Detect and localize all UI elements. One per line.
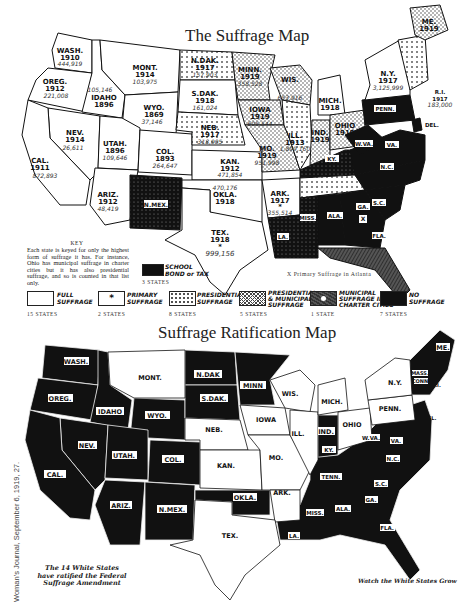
svg-text:S.DAK.: S.DAK. xyxy=(201,395,226,403)
svg-text:R.I.: R.I. xyxy=(431,382,441,388)
svg-text:KAN.: KAN. xyxy=(217,462,235,470)
source-credit: Woman's Journal, September 6, 1919, 27. xyxy=(12,462,21,602)
svg-text:TEX.: TEX. xyxy=(222,532,238,540)
svg-text:ME.: ME. xyxy=(436,344,449,352)
svg-text:FLA.: FLA. xyxy=(380,525,394,531)
r-ndak xyxy=(185,350,237,385)
svg-text:S.C.: S.C. xyxy=(375,481,387,487)
svg-text:PENN.: PENN. xyxy=(379,405,402,413)
svg-text:IOWA: IOWA xyxy=(256,416,276,424)
svg-text:OREG.: OREG. xyxy=(49,395,72,403)
svg-text:COL.: COL. xyxy=(165,456,182,464)
svg-text:ARK.: ARK. xyxy=(273,489,291,497)
svg-text:N.DAK: N.DAK xyxy=(196,371,220,379)
svg-text:VA.: VA. xyxy=(391,438,401,444)
caption-left: The 14 White States have ratified the Fe… xyxy=(32,565,132,588)
svg-text:MICH.: MICH. xyxy=(321,398,343,406)
svg-text:ARIZ.: ARIZ. xyxy=(111,502,131,510)
svg-text:MISS.: MISS. xyxy=(306,510,323,516)
svg-text:GA.: GA. xyxy=(366,497,377,503)
svg-text:NEV.: NEV. xyxy=(79,442,96,450)
svg-text:KY.: KY. xyxy=(324,447,333,453)
r-sdak xyxy=(185,385,240,420)
r-ariz xyxy=(95,480,145,545)
svg-text:DEL.: DEL. xyxy=(424,415,437,421)
svg-text:NEB.: NEB. xyxy=(205,426,222,434)
svg-text:WYO.: WYO. xyxy=(147,412,167,420)
svg-text:IDAHO: IDAHO xyxy=(98,408,122,416)
svg-text:MASS.: MASS. xyxy=(411,370,429,376)
svg-text:TENN.: TENN. xyxy=(322,474,341,480)
svg-text:WASH.: WASH. xyxy=(64,358,89,366)
r-new-england xyxy=(405,330,455,395)
svg-text:CAL.: CAL. xyxy=(47,471,63,479)
svg-text:N.C.: N.C. xyxy=(387,456,400,462)
svg-text:MINN: MINN xyxy=(243,382,263,390)
svg-text:N.Y.: N.Y. xyxy=(388,379,402,387)
svg-text:MONT.: MONT. xyxy=(138,374,161,382)
svg-text:IND.: IND. xyxy=(318,428,334,436)
caption-right: Watch the White States Grow xyxy=(358,577,457,585)
svg-text:ALA.: ALA. xyxy=(336,506,350,512)
svg-text:LA.: LA. xyxy=(289,533,299,539)
svg-text:OHIO: OHIO xyxy=(343,421,362,429)
svg-text:OKLA.: OKLA. xyxy=(234,494,256,502)
svg-text:ILL.: ILL. xyxy=(291,430,304,438)
svg-text:CONN.: CONN. xyxy=(412,378,430,384)
svg-text:WIS.: WIS. xyxy=(282,390,299,398)
svg-text:N.MEX.: N.MEX. xyxy=(159,506,185,514)
ratification-map: WASH. OREG. IDAHO MONT. WYO. N.DAK S.DAK… xyxy=(0,0,469,613)
svg-text:W.VA.: W.VA. xyxy=(362,435,380,441)
r-kan xyxy=(200,450,262,490)
svg-text:UTAH.: UTAH. xyxy=(113,452,135,460)
svg-text:MO.: MO. xyxy=(269,454,283,462)
r-mich xyxy=(318,378,348,415)
